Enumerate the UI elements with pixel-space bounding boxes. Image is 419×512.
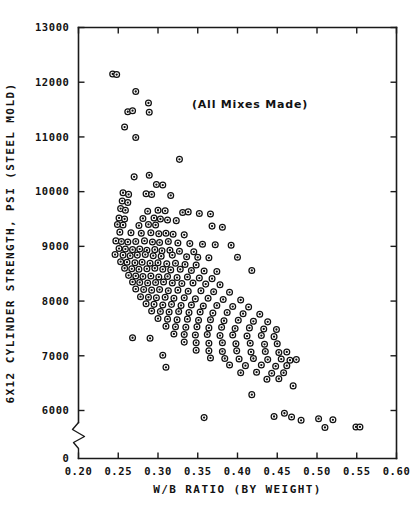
data-point: [249, 392, 255, 398]
data-point: [122, 216, 128, 222]
data-point: [183, 324, 189, 330]
data-point: [130, 335, 136, 341]
x-tick-label: 0.35: [184, 465, 212, 477]
data-point: [174, 317, 180, 323]
data-point: [146, 222, 152, 228]
data-point: [181, 232, 187, 238]
data-point: [127, 253, 133, 259]
data-point: [115, 222, 121, 228]
data-point: [123, 207, 129, 213]
data-point: [153, 280, 159, 286]
data-point: [200, 303, 206, 309]
data-point: [179, 281, 185, 287]
data-point: [257, 311, 263, 317]
data-point: [147, 260, 153, 266]
data-point: [154, 295, 160, 301]
data-point: [209, 223, 215, 229]
y-tick-label: 9000: [42, 240, 70, 252]
data-point: [271, 334, 277, 340]
data-point: [174, 275, 180, 281]
data-point: [184, 254, 190, 260]
x-tick-label: 0.60: [383, 465, 411, 477]
x-tick-label: 0.30: [144, 465, 172, 477]
data-point: [261, 326, 267, 332]
data-point: [206, 348, 212, 354]
data-point: [276, 376, 282, 382]
data-point: [209, 276, 215, 282]
data-point: [251, 356, 257, 362]
data-point: [200, 241, 206, 247]
data-point: [249, 268, 255, 274]
data-point: [124, 259, 130, 265]
data-point: [208, 317, 214, 323]
data-point: [185, 274, 191, 280]
y-tick-label: 7000: [42, 350, 70, 362]
data-point: [192, 296, 198, 302]
data-point: [206, 340, 212, 346]
data-point: [161, 279, 167, 285]
data-point: [152, 265, 158, 271]
data-point: [192, 332, 198, 338]
data-point: [185, 209, 191, 215]
data-point: [165, 316, 171, 322]
data-point: [281, 370, 287, 376]
data-point: [201, 415, 207, 421]
data-point: [160, 182, 166, 188]
data-point: [125, 200, 131, 206]
data-point: [113, 238, 119, 244]
data-point: [194, 324, 200, 330]
data-point: [217, 333, 223, 339]
data-point: [234, 348, 240, 354]
data-point: [145, 280, 151, 286]
data-point: [186, 310, 192, 316]
x-tick-label: 0.20: [65, 465, 93, 477]
data-point: [157, 216, 163, 222]
data-point: [120, 222, 126, 228]
data-point: [210, 310, 216, 316]
data-point: [160, 352, 166, 358]
y-tick-label: 6000: [42, 404, 70, 416]
data-point: [203, 281, 209, 287]
data-point: [316, 416, 322, 422]
data-point: [169, 252, 175, 258]
data-point: [126, 272, 132, 278]
data-point: [146, 109, 152, 115]
data-point: [196, 317, 202, 323]
data-point: [130, 279, 136, 285]
data-point: [227, 289, 233, 295]
data-point: [137, 246, 143, 252]
x-tick-label: 0.50: [303, 465, 331, 477]
data-point: [195, 254, 201, 260]
data-point: [156, 274, 162, 280]
data-point: [171, 295, 177, 301]
data-point: [132, 260, 138, 266]
data-point: [157, 240, 163, 246]
data-point: [148, 273, 154, 279]
data-point: [246, 304, 252, 310]
data-point: [284, 349, 290, 355]
data-point: [196, 211, 202, 217]
data-point: [155, 316, 161, 322]
y-tick-label: 8000: [42, 295, 70, 307]
data-point: [269, 370, 275, 376]
data-point: [157, 309, 163, 315]
y-axis-title: 6X12 CYLINDER STRENGTH, PSI (STEEL MOLD): [4, 83, 17, 404]
data-point: [168, 193, 174, 199]
x-tick-label: 0.40: [224, 465, 252, 477]
data-point: [330, 417, 336, 423]
data-point: [240, 311, 246, 317]
data-point: [230, 304, 236, 310]
data-point: [205, 295, 211, 301]
data-point: [171, 331, 177, 337]
data-point: [233, 341, 239, 347]
data-point: [201, 268, 207, 274]
data-point: [278, 356, 284, 362]
data-point: [130, 247, 136, 253]
data-point: [152, 247, 158, 253]
data-point: [177, 156, 183, 162]
data-point: [141, 287, 147, 293]
data-point: [163, 323, 169, 329]
data-point: [120, 252, 126, 258]
data-point: [208, 211, 214, 217]
data-point: [214, 303, 220, 309]
